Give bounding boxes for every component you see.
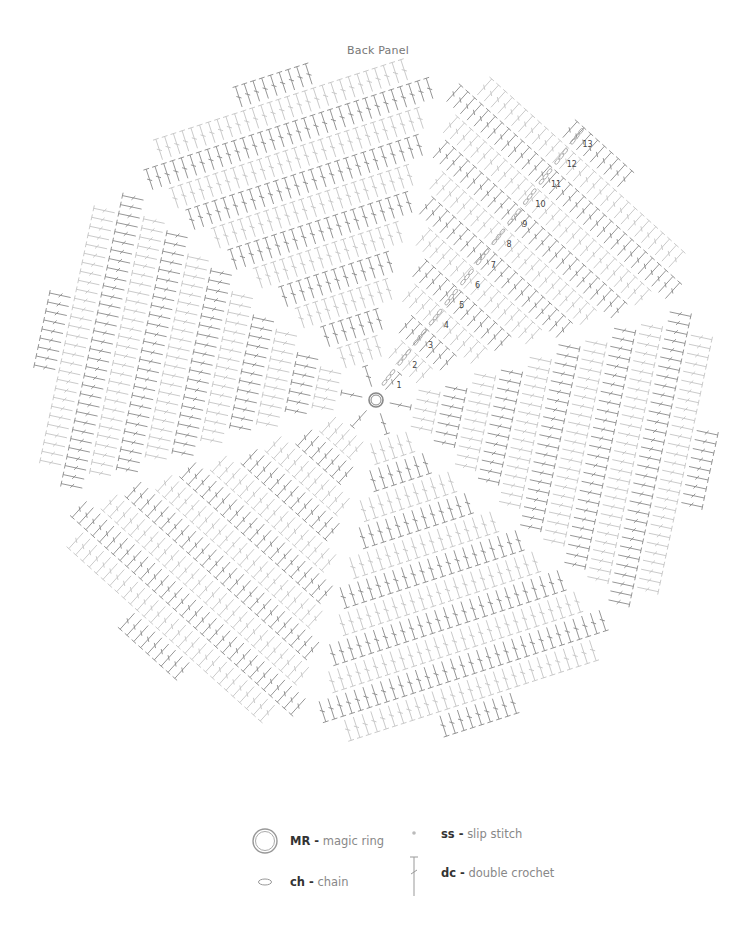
round-label: 7 xyxy=(491,261,496,270)
legend-item-chain: ch - chain xyxy=(290,875,349,889)
legend-abbr: ch - xyxy=(290,875,314,889)
round-label: 12 xyxy=(567,160,577,169)
round-label: 2 xyxy=(412,361,417,370)
round-label: 5 xyxy=(459,301,464,310)
round-label: 11 xyxy=(551,180,561,189)
chain-icon xyxy=(255,877,275,887)
legend-text: slip stitch xyxy=(467,827,522,841)
legend-abbr: ss - xyxy=(441,827,463,841)
crochet-diagram: 12345678910111213 xyxy=(0,0,756,800)
legend-item-double-crochet: dc - double crochet xyxy=(441,866,554,880)
round-label: 4 xyxy=(444,321,449,330)
legend-text: chain xyxy=(317,875,348,889)
legend-abbr: MR - xyxy=(290,834,319,848)
round-label: 3 xyxy=(428,341,433,350)
legend-text: double crochet xyxy=(468,866,554,880)
round-label: 6 xyxy=(475,281,480,290)
round-label: 8 xyxy=(506,240,511,249)
round-label: 1 xyxy=(397,381,402,390)
slip-stitch-icon xyxy=(410,829,418,837)
legend-text: magic ring xyxy=(323,834,384,848)
legend-item-slip-stitch: ss - slip stitch xyxy=(441,827,522,841)
magic-ring-icon xyxy=(250,826,280,856)
legend-abbr: dc - xyxy=(441,866,465,880)
round-label: 10 xyxy=(535,200,545,209)
legend-item-magic-ring: MR - magic ring xyxy=(290,834,384,848)
double-crochet-icon xyxy=(407,855,421,897)
round-label: 9 xyxy=(522,220,527,229)
magic-ring-icon xyxy=(369,393,383,407)
round-label: 13 xyxy=(582,140,592,149)
